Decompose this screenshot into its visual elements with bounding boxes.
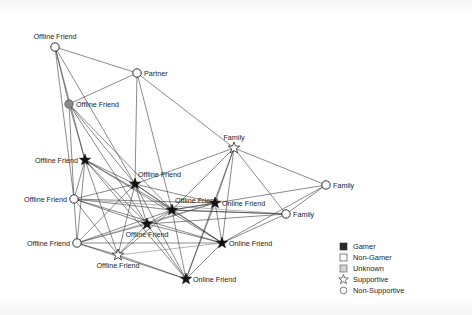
graph-node[interactable] [51, 43, 59, 51]
graph-edge [137, 73, 234, 148]
graph-edge [69, 104, 135, 184]
graph-edge [74, 199, 118, 255]
graph-node-label: Offline Friend [76, 100, 119, 109]
network-diagram-canvas: Offline FriendPartnerOffline FriendFamil… [0, 0, 472, 315]
graph-node[interactable] [129, 178, 140, 189]
graph-edge [186, 243, 222, 279]
graph-node[interactable] [216, 237, 227, 248]
graph-node[interactable] [133, 69, 141, 77]
graph-node-label: Offline Friend [35, 156, 78, 165]
graph-node[interactable] [322, 181, 330, 189]
graph-edge [55, 47, 137, 73]
graph-node-label: Online Friend [229, 239, 272, 248]
graph-node-label: Offline Friend [125, 230, 168, 239]
social-network-graph: Offline FriendPartnerOffline FriendFamil… [0, 0, 472, 315]
legend-symbol-filled-square [340, 243, 347, 250]
graph-node[interactable] [65, 100, 73, 108]
graph-node-label: Offline Friend [24, 195, 67, 204]
legend-group: GamerNon-GamerUnknownSupportiveNon-Suppo… [339, 242, 405, 295]
graph-node-label: Family [223, 133, 245, 142]
graph-edge [74, 199, 147, 224]
graph-edge [186, 203, 215, 279]
graph-node-label: Partner [144, 69, 168, 78]
graph-edge [135, 73, 137, 184]
graph-edge [55, 47, 74, 199]
graph-edge [118, 224, 147, 255]
graph-edge [222, 148, 234, 243]
legend-label: Non-Gamer [353, 253, 392, 262]
graph-edge [186, 148, 234, 279]
graph-node-label: Offline Friend [96, 261, 139, 270]
graph-node-label: Online Friend [193, 275, 236, 284]
graph-node[interactable] [228, 142, 239, 153]
graph-edge [234, 148, 326, 185]
legend-symbol-open-square [340, 254, 347, 261]
legend-label: Supportive [353, 275, 388, 284]
graph-node-label: Online Friend [222, 199, 265, 208]
graph-node[interactable] [73, 239, 81, 247]
graph-edge [137, 73, 172, 210]
graph-edge [172, 210, 186, 279]
graph-edge [85, 160, 135, 184]
graph-edge [85, 160, 118, 255]
edge-layer [55, 47, 326, 279]
graph-edge-secondary [118, 243, 222, 255]
graph-node-label: Offline Friend [175, 196, 218, 205]
graph-edge [85, 160, 172, 210]
graph-node[interactable] [282, 210, 290, 218]
graph-edge [172, 210, 222, 243]
legend-label: Unknown [353, 264, 384, 273]
graph-node-label: Offline Friend [33, 32, 76, 41]
legend-label: Gamer [353, 242, 376, 251]
graph-node-label: Family [293, 210, 315, 219]
graph-node-label: Offline Friend [138, 170, 181, 179]
legend-symbol-open-star [339, 275, 349, 284]
graph-node[interactable] [70, 195, 78, 203]
legend-label: Non-Supportive [353, 286, 404, 295]
graph-node-label: Family [333, 181, 355, 190]
graph-node[interactable] [79, 154, 90, 165]
legend-symbol-gray-square [340, 265, 347, 272]
graph-node-label: Offline Friend [27, 239, 70, 248]
graph-edge [118, 184, 135, 255]
legend-symbol-open-circle [340, 287, 347, 294]
graph-edge [74, 199, 77, 243]
